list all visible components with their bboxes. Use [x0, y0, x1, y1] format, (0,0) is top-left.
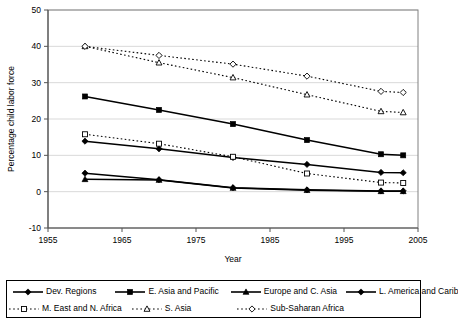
x-axis-tick-label: 1955: [39, 235, 58, 245]
x-axis-tick-label: 1995: [335, 235, 354, 245]
x-axis-tick-label: 1985: [261, 235, 280, 245]
x-axis-title: Year: [224, 254, 241, 264]
data-point-marker: [378, 88, 384, 94]
legend-item-label: S. Asia: [164, 304, 191, 313]
legend-sample-filled-square: [113, 286, 147, 298]
legend-item-s-asia[interactable]: S. Asia: [130, 303, 191, 315]
data-point-marker: [249, 305, 255, 311]
series-1: [83, 94, 406, 158]
data-point-marker: [22, 306, 27, 311]
data-point-marker: [400, 109, 406, 114]
series-line: [85, 173, 403, 191]
legend-row-bottom: M. East and N. AfricaS. AsiaSub-Saharan …: [7, 300, 420, 317]
y-axis-tick-label: 20: [32, 114, 42, 124]
series-6: [82, 43, 406, 95]
data-point-marker: [305, 138, 310, 143]
legend-item-sub-saharan-africa[interactable]: Sub-Saharan Africa: [235, 303, 344, 315]
data-point-marker: [378, 169, 384, 175]
series-line: [85, 46, 403, 92]
legend-sample-filled-diamond: [344, 286, 378, 298]
legend-sample-filled-triangle: [229, 286, 263, 298]
y-axis-tick-label: 0: [36, 187, 41, 197]
series-0: [82, 138, 406, 176]
data-point-marker: [83, 94, 88, 99]
data-point-marker: [401, 180, 406, 185]
legend-item-e-asia-and-pacific[interactable]: E. Asia and Pacific: [113, 286, 218, 298]
data-point-marker: [128, 289, 133, 294]
data-point-marker: [231, 122, 236, 127]
legend-item-dev-regions[interactable]: Dev. Regions: [11, 286, 96, 298]
series-line: [85, 179, 403, 191]
data-point-marker: [304, 161, 310, 167]
chart-plot-area: 50403020100-10195519651975198519952005Ye…: [0, 0, 429, 276]
series-line: [85, 46, 403, 112]
x-axis-tick-label: 1965: [113, 235, 132, 245]
y-axis-title: Percentage child labor force: [6, 66, 16, 172]
x-axis-tick-label: 1975: [187, 235, 206, 245]
legend-sample-open-square: [7, 303, 41, 315]
data-point-marker: [304, 73, 310, 79]
legend-item-m-east-and-n-africa[interactable]: M. East and N. Africa: [7, 303, 122, 315]
data-point-marker: [379, 152, 384, 157]
legend-item-label: Dev. Regions: [45, 287, 96, 296]
y-axis-tick-label: 50: [32, 5, 42, 15]
legend-item-label: M. East and N. Africa: [41, 304, 122, 313]
data-point-marker: [379, 180, 384, 185]
data-point-marker: [82, 170, 88, 176]
data-point-marker: [401, 153, 406, 158]
series-line: [85, 141, 403, 173]
y-axis-tick-label: -10: [29, 223, 42, 233]
data-point-marker: [25, 288, 31, 294]
data-point-marker: [400, 89, 406, 95]
legend-row-top: Dev. RegionsE. Asia and PacificEurope an…: [7, 283, 420, 300]
legend-item-label: L. America and Carib: [378, 287, 458, 296]
series-3: [82, 170, 406, 194]
legend-sample-open-diamond: [235, 303, 269, 315]
chart-legend: Dev. RegionsE. Asia and PacificEurope an…: [6, 280, 421, 318]
data-point-marker: [82, 138, 88, 144]
data-point-marker: [156, 52, 162, 58]
data-point-marker: [156, 60, 162, 65]
chart-svg: 50403020100-10195519651975198519952005Ye…: [0, 0, 429, 276]
legend-sample-filled-diamond: [11, 286, 45, 298]
legend-item-label: Sub-Saharan Africa: [269, 304, 344, 313]
legend-item-label: E. Asia and Pacific: [147, 287, 218, 296]
data-point-marker: [231, 154, 236, 159]
data-point-marker: [305, 171, 310, 176]
x-axis-tick-label: 2005: [409, 235, 428, 245]
data-point-marker: [157, 141, 162, 146]
legend-item-label: Europe and C. Asia: [263, 287, 337, 296]
y-axis-tick-label: 40: [32, 41, 42, 51]
legend-item-l-america-and-carib[interactable]: L. America and Carib: [344, 286, 458, 298]
y-axis-tick-label: 10: [32, 150, 42, 160]
data-point-marker: [358, 288, 364, 294]
legend-sample-open-triangle: [130, 303, 164, 315]
data-point-marker: [230, 61, 236, 67]
data-point-marker: [157, 107, 162, 112]
legend-item-europe-and-c-asia[interactable]: Europe and C. Asia: [229, 286, 337, 298]
y-axis-tick-label: 30: [32, 78, 42, 88]
data-point-marker: [400, 170, 406, 176]
data-point-marker: [83, 132, 88, 137]
